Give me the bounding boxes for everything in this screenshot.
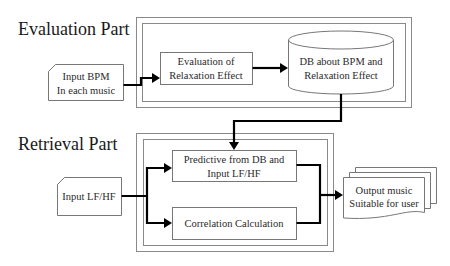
edge-input-lfhf-to-correlation [147,196,172,228]
db-line2: Relaxation Effect [304,70,378,81]
edge-input-lfhf-to-predictive [122,163,173,196]
edge-db-to-predictive [229,94,341,150]
predictive-node: Predictive from DB and Input LF/HF [173,151,297,182]
evaluation-part-title: Evaluation Part [18,19,129,39]
retrieval-part-title: Retrieval Part [18,134,117,154]
input-bpm-node: Input BPM In each music [49,65,124,101]
flow-diagram: Evaluation Part Retrieval Part Input BPM… [0,0,450,266]
output-line1: Output music [356,185,413,196]
edge-predictive-to-output [297,165,344,223]
output-line2: Suitable for user [349,198,419,209]
input-bpm-line1: Input BPM [63,71,111,82]
arrowhead-icon [335,190,343,200]
correlation-node: Correlation Calculation [173,208,297,240]
predictive-line1: Predictive from DB and [184,154,285,165]
predictive-line2: Input LF/HF [207,168,261,179]
arrowhead-icon [229,142,239,150]
input-lfhf-node: Input LF/HF [58,178,122,216]
evaluation-line1: Evaluation of [178,56,235,67]
edge-input-bpm-to-evaluation [124,73,161,85]
db-node: DB about BPM and Relaxation Effect [289,31,394,94]
arrowhead-icon [164,163,172,173]
correlation-label: Correlation Calculation [185,218,285,229]
arrowhead-icon [152,73,160,83]
edge-evaluation-to-db [253,63,289,73]
arrowhead-icon [280,63,288,73]
db-line1: DB about BPM and [299,56,383,67]
output-node: Output music Suitable for user [344,168,437,219]
input-lfhf-label: Input LF/HF [62,191,116,202]
input-bpm-line2: In each music [57,85,116,96]
evaluation-node: Evaluation of Relaxation Effect [161,53,253,85]
evaluation-line2: Relaxation Effect [169,70,243,81]
arrowhead-icon [164,218,172,228]
